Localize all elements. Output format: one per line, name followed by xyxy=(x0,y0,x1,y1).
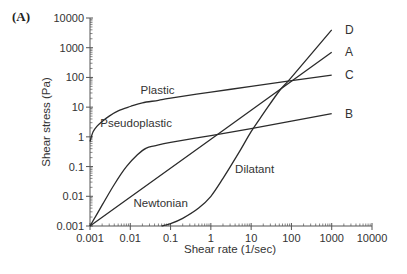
y-tick-label: 0.001 xyxy=(56,220,84,232)
x-axis-title: Shear rate (1/sec) xyxy=(184,243,276,255)
series-letter-a: A xyxy=(345,45,353,59)
x-tick-label: 0.1 xyxy=(163,232,178,244)
series-letter-c: C xyxy=(345,68,354,82)
y-tick-label: 10 xyxy=(72,101,84,113)
panel-label: (A) xyxy=(12,9,30,24)
plastic-label: Plastic xyxy=(141,84,175,96)
y-tick-label: 10000 xyxy=(53,12,84,24)
x-tick-label: 0.01 xyxy=(120,232,141,244)
y-axis-title: Shear stress (Pa) xyxy=(40,77,52,167)
x-tick-label: 100 xyxy=(282,232,300,244)
x-tick-label: 0.001 xyxy=(76,232,104,244)
series-letter-b: B xyxy=(345,107,353,121)
x-tick-label: 1000 xyxy=(319,232,343,244)
rheology-chart: (A) 0.0010.010.11101001000100000.0010.01… xyxy=(0,0,407,274)
y-tick-label: 1 xyxy=(78,131,84,143)
pseudoplastic-curve xyxy=(90,114,332,226)
newtonian-curve xyxy=(90,52,332,226)
curve-labels: PlasticCPseudoplasticBNewtonianADilatant… xyxy=(100,23,354,209)
y-tick-label: 0.01 xyxy=(63,190,84,202)
y-tick-label: 0.1 xyxy=(69,161,84,173)
series-letter-d: D xyxy=(345,23,354,37)
x-tick-label: 10000 xyxy=(357,232,388,244)
y-tick-label: 100 xyxy=(66,71,84,83)
pseudoplastic-label: Pseudoplastic xyxy=(100,117,172,129)
dilatant-label: Dilatant xyxy=(235,163,275,175)
plastic-curve xyxy=(90,75,332,141)
y-tick-label: 1000 xyxy=(60,42,84,54)
newtonian-label: Newtonian xyxy=(133,197,187,209)
